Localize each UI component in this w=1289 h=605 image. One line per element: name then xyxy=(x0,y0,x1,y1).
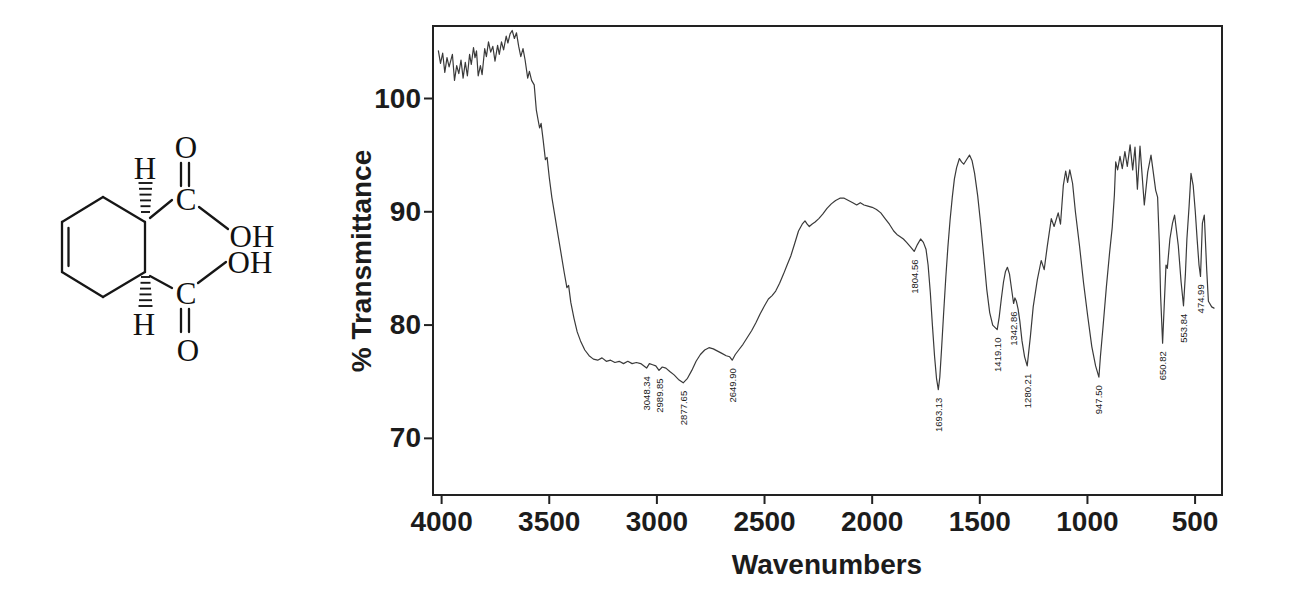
ir-spectrum-plot: 4000350030002500200015001000500 70809010… xyxy=(346,26,1222,580)
c1-carboxyl-bond xyxy=(150,200,172,218)
molecule-structure: O C OH OH C O H H xyxy=(62,130,274,368)
y-axis-title: % Transmittance xyxy=(346,150,377,373)
plot-border xyxy=(433,26,1222,495)
x-tick-label: 500 xyxy=(1172,506,1219,537)
ir-spectrum-page: O C OH OH C O H H 4000350030002500200015… xyxy=(0,0,1289,605)
atom-label-oh-lower: OH xyxy=(228,245,273,280)
ring-bond xyxy=(62,272,103,297)
hash-wedge-lower xyxy=(139,277,153,306)
peak-wavenumber-label: 2649.90 xyxy=(727,368,738,402)
peak-wavenumber-label: 1342.86 xyxy=(1008,312,1019,346)
y-tick-label: 90 xyxy=(390,196,421,227)
y-tick-label: 100 xyxy=(374,83,421,114)
peak-wavenumber-label: 1280.21 xyxy=(1022,374,1033,408)
peak-wavenumber-label: 2989.85 xyxy=(654,378,665,412)
peak-wavenumber-label: 1804.56 xyxy=(909,259,920,293)
x-tick-label: 4000 xyxy=(410,506,472,537)
hash-wedge-upper xyxy=(139,183,153,212)
peak-wavenumber-label: 1693.13 xyxy=(933,398,944,432)
peak-wavenumber-label: 1419.10 xyxy=(992,338,1003,372)
atom-label-h-upper: H xyxy=(134,151,156,186)
atom-label-o-upper: O xyxy=(175,130,197,165)
peak-wavenumber-label: 474.99 xyxy=(1195,284,1206,313)
x-tick-label: 2500 xyxy=(733,506,795,537)
x-tick-label: 3000 xyxy=(626,506,688,537)
x-tick-label: 3500 xyxy=(518,506,580,537)
c-oh-bond xyxy=(198,262,226,283)
peak-wavenumber-label: 553.84 xyxy=(1178,314,1189,343)
x-tick-label: 1000 xyxy=(1056,506,1118,537)
ring-bond xyxy=(103,197,145,222)
peak-wavenumber-label: 947.50 xyxy=(1093,385,1104,414)
spectrum-curve xyxy=(438,31,1214,390)
x-axis-title: Wavenumbers xyxy=(732,549,922,580)
x-tick-label: 2000 xyxy=(841,506,903,537)
x-axis-ticks: 4000350030002500200015001000500 xyxy=(410,495,1218,537)
atom-label-o-lower: O xyxy=(177,333,199,368)
peak-wavenumber-label: 3048.34 xyxy=(641,376,652,410)
atom-label-c-upper: C xyxy=(176,182,197,217)
c2-carboxyl-bond xyxy=(150,276,172,288)
atom-label-h-lower: H xyxy=(133,307,155,342)
peak-wavenumber-label: 2877.65 xyxy=(678,391,689,425)
y-tick-label: 80 xyxy=(390,309,421,340)
y-tick-label: 70 xyxy=(390,422,421,453)
ring-bond xyxy=(103,272,145,297)
peak-wavenumber-label: 650.82 xyxy=(1157,351,1168,380)
peak-labels: 3048.342989.852877.652649.901804.561693.… xyxy=(641,259,1206,432)
x-tick-label: 1500 xyxy=(949,506,1011,537)
y-axis-ticks: 708090100 xyxy=(374,83,433,454)
c-oh-bond xyxy=(199,207,228,229)
ring-bond xyxy=(62,197,103,222)
atom-label-c-lower: C xyxy=(176,276,197,311)
